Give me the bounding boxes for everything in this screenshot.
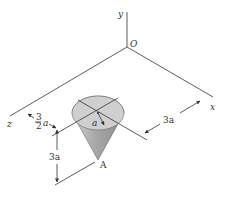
x-axis-label: x [210,102,215,112]
x-offset-label: 3a [163,115,175,125]
apex-label: A [99,160,107,170]
height-label: 3a [49,152,61,162]
z-offset-denominator: 2 [36,121,42,131]
apex-extension-line [55,162,95,185]
cone: a A [52,96,147,170]
z-offset-symbol: a [43,118,48,128]
radius-label: a [92,118,97,128]
x-offset-dimension: 3a [145,101,200,133]
z-offset-arrow-1 [28,114,34,118]
x-offset-arrow-2 [180,101,200,113]
cone-diagram: y O z x a A 3 2 a 3a 3a [0,0,227,197]
x-offset-arrow-1 [145,124,160,133]
x-axis [127,47,213,97]
y-axis-label: y [117,9,124,19]
z-offset-dimension: 3 2 a [28,112,56,131]
origin-label: O [130,39,138,49]
z-axis-label: z [6,119,12,129]
z-offset-arrow-2 [49,124,56,128]
